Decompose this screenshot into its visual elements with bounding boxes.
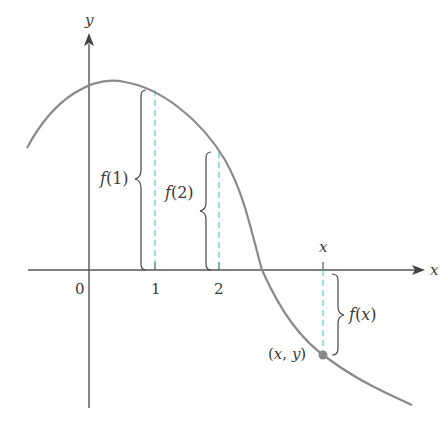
origin-label: 0 (75, 280, 85, 298)
label-fx: f(x) (348, 305, 376, 324)
label-point-xy: (x, y) (268, 345, 306, 363)
tick-label-2: 2 (214, 280, 224, 298)
point-xy (319, 351, 328, 360)
x-axis-label: x (430, 261, 439, 279)
y-axis-label: y (84, 11, 94, 29)
x-axis (28, 265, 425, 275)
brace-f1 (135, 90, 146, 270)
tick-label-1: 1 (151, 280, 161, 298)
y-axis (84, 33, 94, 408)
brace-f2 (200, 152, 211, 270)
function-graph-figure: y x 0 1 2 x f(1) f(2) f(x) (x, y) (0, 0, 448, 434)
label-f2: f(2) (164, 183, 194, 202)
tick-label-x: x (319, 238, 328, 256)
brace-fx (332, 274, 344, 355)
label-f1: f(1) (99, 169, 129, 188)
